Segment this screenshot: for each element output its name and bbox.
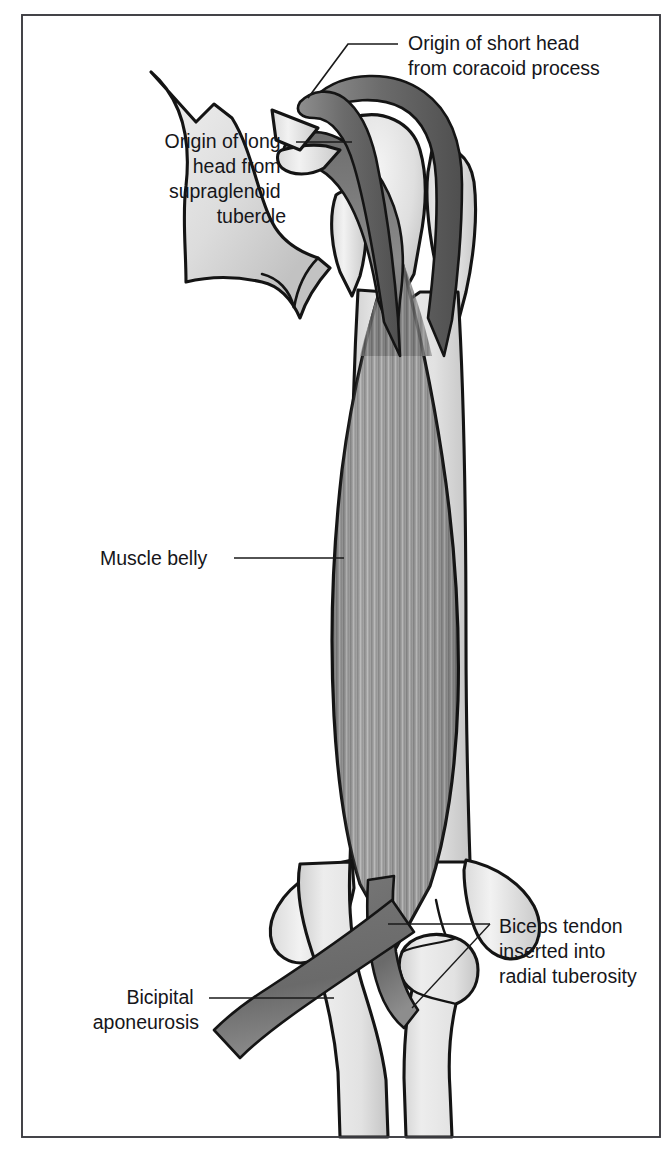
label-muscle-belly: Muscle belly [100,547,208,569]
label-line: Muscle belly [100,547,208,569]
label-line: supraglenoid [169,180,281,202]
label-line: tubercle [217,205,286,227]
label-line: head from [193,155,281,177]
anatomy-figure: Origin of short head from coracoid proce… [0,0,671,1163]
label-line: aponeurosis [93,1011,199,1033]
label-line: inserted into [499,940,605,962]
label-line: radial tuberosity [499,965,637,987]
label-line: Origin of short head [408,32,579,54]
label-line: from coracoid process [408,57,600,79]
label-line: Bicipital [126,986,193,1008]
label-line: Origin of long [165,130,281,152]
label-line: Biceps tendon [499,915,623,937]
anatomy-illustration: Origin of short head from coracoid proce… [0,0,671,1163]
